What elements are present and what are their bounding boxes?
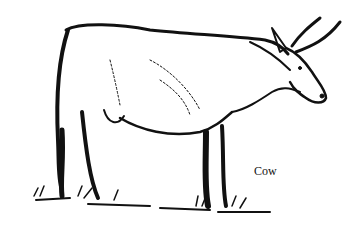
cow-dewlap: [232, 88, 300, 112]
cow-front-leg-back: [206, 132, 209, 206]
cow-illustration: [0, 0, 364, 229]
cow-belly: [120, 112, 232, 134]
cow-hind-leg-front: [82, 112, 98, 198]
cow-caption: Cow: [254, 164, 277, 179]
cow-ear: [272, 28, 286, 52]
cow-body-outline: [66, 25, 288, 54]
cow-front-leg-front: [222, 126, 226, 206]
cow-udder: [104, 110, 124, 122]
cow-horn-right: [296, 22, 340, 52]
cow-eye: [299, 67, 302, 70]
cow-shading: [110, 60, 200, 115]
cow-nostril: [320, 94, 324, 98]
cow-head: [286, 48, 326, 103]
cow-hind-leg-back: [61, 130, 62, 196]
